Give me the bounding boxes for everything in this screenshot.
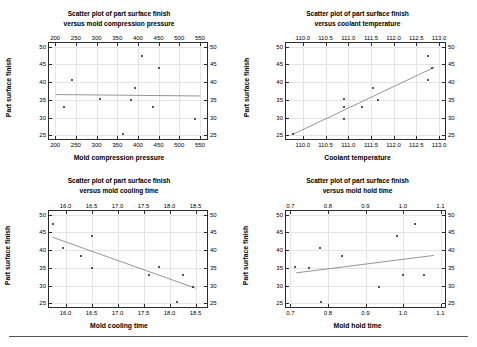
y-axis-tick-label: 35: [210, 97, 217, 103]
data-point: [62, 247, 64, 249]
x-axis-tick-label: 17.5: [138, 203, 150, 209]
data-point: [130, 99, 132, 101]
x-axis-tick-label: 1.0: [399, 310, 407, 316]
x-axis-title: Mold compression pressure: [0, 154, 238, 161]
y-axis-tick-label: 30: [276, 115, 283, 121]
data-point: [91, 267, 93, 269]
x-axis-tick-label: 350: [112, 142, 122, 148]
data-point: [152, 106, 154, 108]
x-axis-tick-label: 110.0: [296, 35, 311, 41]
y-axis-tick-label: 45: [448, 61, 455, 67]
chart-title: Scatter plot of part surface finish vers…: [238, 176, 477, 195]
x-axis-tick-label: 500: [174, 142, 184, 148]
x-axis-tick-label: 300: [92, 35, 102, 41]
x-axis-tick-label: 0.9: [361, 310, 369, 316]
data-point: [292, 133, 294, 135]
chart-title: Scatter plot of part surface finish vers…: [0, 176, 238, 195]
regression-line: [286, 211, 445, 307]
y-axis-tick-label: 30: [210, 115, 217, 121]
x-axis-tick-label: 18.0: [164, 310, 176, 316]
x-axis-tick-label: 0.8: [324, 310, 332, 316]
y-axis-tick-label: 45: [448, 229, 455, 235]
y-axis-tick-label: 50: [276, 212, 283, 218]
data-point: [176, 301, 178, 303]
chart-title-line2: versus mold cooling time: [79, 187, 158, 194]
x-axis-tick-label: 112.5: [409, 142, 424, 148]
x-axis-tick-label: 18.0: [164, 203, 176, 209]
x-axis-tick-label: 400: [133, 35, 143, 41]
x-axis-tick-label: 550: [195, 35, 205, 41]
chart-title-line2: versus mold compression pressure: [64, 20, 175, 27]
x-axis-tick-label: 113.0: [432, 142, 447, 148]
y-axis-tick-label: 40: [210, 247, 217, 253]
data-point: [427, 55, 429, 57]
data-point: [294, 266, 296, 268]
data-point: [99, 98, 101, 100]
data-point: [63, 106, 65, 108]
data-point: [372, 87, 374, 89]
x-axis-tick-label: 0.9: [361, 203, 369, 209]
data-point: [52, 223, 54, 225]
x-axis-tick-label: 450: [154, 142, 164, 148]
y-axis-tick-label: 30: [448, 283, 455, 289]
y-axis-title: Part surface finish: [5, 58, 12, 118]
y-axis-tick-label: 35: [448, 265, 455, 271]
data-point: [414, 223, 416, 225]
y-axis-tick-label: 45: [39, 61, 46, 67]
chart-title-line2: versus mold hold time: [323, 187, 393, 194]
x-axis-tick-label: 350: [112, 35, 122, 41]
x-axis-tick-label: 16.0: [60, 310, 72, 316]
y-axis-tick-label: 40: [39, 247, 46, 253]
data-point: [308, 267, 310, 269]
chart-title-line1: Scatter plot of part surface finish: [68, 10, 171, 17]
data-point: [341, 255, 343, 257]
y-axis-tick-label: 25: [210, 300, 217, 306]
data-point: [194, 118, 196, 120]
x-axis-tick-label: 1.1: [436, 203, 444, 209]
data-point: [122, 133, 124, 135]
y-axis-tick-label: 25: [276, 300, 283, 306]
plot-area: 16.016.016.516.517.017.017.517.518.018.0…: [48, 210, 208, 308]
y-axis-tick-label: 35: [210, 265, 217, 271]
regression-line: [49, 43, 207, 139]
plot-area: 2002002502503003003503504004004504505005…: [48, 42, 208, 140]
y-axis-title: Part surface finish: [242, 226, 249, 286]
x-axis-tick-label: 110.0: [296, 142, 311, 148]
chart-panel-mold-cooling-time: Scatter plot of part surface finish vers…: [0, 172, 238, 336]
x-axis-tick-label: 113.0: [432, 35, 447, 41]
x-axis-tick-label: 110.5: [318, 142, 333, 148]
y-axis-tick-label: 50: [448, 44, 455, 50]
y-axis-tick-label: 30: [448, 115, 455, 121]
y-axis-tick-label: 45: [276, 61, 283, 67]
y-axis-tick-label: 30: [276, 283, 283, 289]
scatter-plot-grid: Scatter plot of part surface finish vers…: [0, 0, 477, 336]
y-axis-tick-label: 35: [39, 97, 46, 103]
chart-title: Scatter plot of part surface finish vers…: [238, 9, 477, 28]
x-axis-tick-label: 200: [50, 142, 60, 148]
plot-area: 110.0110.0110.5110.5111.0111.0111.5111.5…: [285, 42, 446, 140]
x-axis-tick-label: 16.5: [86, 310, 98, 316]
y-axis-tick-label: 45: [210, 229, 217, 235]
y-axis-tick-label: 30: [39, 283, 46, 289]
data-point: [396, 235, 398, 237]
x-axis-tick-label: 16.0: [60, 203, 72, 209]
y-axis-tick-label: 50: [276, 44, 283, 50]
x-axis-tick-label: 450: [154, 35, 164, 41]
data-point: [320, 301, 322, 303]
x-axis-tick-label: 0.8: [324, 203, 332, 209]
x-axis-tick-label: 500: [174, 35, 184, 41]
x-axis-tick-label: 112.0: [386, 142, 401, 148]
x-axis-tick-label: 17.0: [112, 203, 124, 209]
data-point: [423, 274, 425, 276]
data-point: [158, 67, 160, 69]
y-axis-tick-label: 40: [210, 79, 217, 85]
y-axis-tick-label: 40: [448, 247, 455, 253]
y-axis-tick-label: 50: [448, 212, 455, 218]
x-axis-title: Coolant temperature: [238, 154, 477, 161]
y-axis-tick-label: 50: [210, 44, 217, 50]
y-axis-title: Part surface finish: [243, 58, 250, 118]
x-axis-tick-label: 111.5: [364, 35, 378, 41]
y-axis-tick-label: 25: [448, 300, 455, 306]
y-axis-tick-label: 25: [39, 132, 46, 138]
y-axis-tick-label: 45: [210, 61, 217, 67]
